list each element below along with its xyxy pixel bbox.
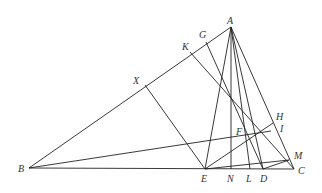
label-C: C (298, 165, 305, 176)
segment-XE (145, 85, 205, 169)
label-A: A (226, 15, 234, 26)
label-H: H (275, 111, 284, 122)
segments (29, 27, 294, 169)
geometry-diagram: A B C D E L N F G K X H I M (0, 0, 322, 193)
label-L: L (245, 173, 252, 184)
segment-GD (206, 42, 263, 169)
side-BC (29, 168, 294, 169)
side-AB (29, 27, 231, 168)
label-M: M (293, 150, 303, 161)
label-N: N (226, 173, 235, 184)
label-B: B (18, 163, 24, 174)
label-D: D (259, 173, 268, 184)
label-I: I (279, 123, 284, 134)
labels: A B C D E L N F G K X H I M (18, 15, 305, 184)
label-X: X (132, 75, 140, 86)
label-K: K (181, 41, 190, 52)
segment-BI (29, 131, 271, 168)
label-F: F (235, 126, 243, 137)
label-E: E (200, 173, 207, 184)
label-G: G (199, 29, 206, 40)
